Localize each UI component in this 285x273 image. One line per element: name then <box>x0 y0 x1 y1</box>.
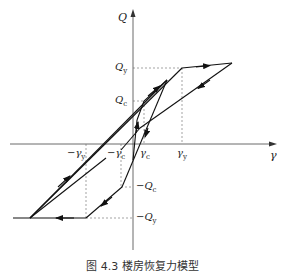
y-axis-arrow-icon <box>131 9 136 17</box>
arrow-icon <box>196 66 210 68</box>
guide-lines <box>86 68 182 218</box>
arrow-icon <box>101 197 112 206</box>
arrow-icon <box>58 176 70 187</box>
label-gamma-c: γc <box>140 148 150 161</box>
label-neg-Qy: −Qy <box>136 212 157 225</box>
label-neg-gamma-c: −γc <box>107 148 125 161</box>
label-Qy: Qy <box>115 62 127 75</box>
arrow-icon <box>198 80 210 89</box>
figure-caption: 图 4.3 楼房恢复力模型 <box>0 257 285 273</box>
x-axis-label: γ <box>270 150 277 161</box>
x-axis-arrow-icon <box>269 142 277 147</box>
label-Qc: Qc <box>115 95 127 108</box>
hysteresis-loops <box>13 63 232 218</box>
label-gamma-y: γy <box>177 148 187 161</box>
y-axis-label: Q <box>118 12 127 23</box>
label-neg-gamma-y: −γy <box>67 148 85 161</box>
label-neg-Qc: −Qc <box>136 181 157 194</box>
